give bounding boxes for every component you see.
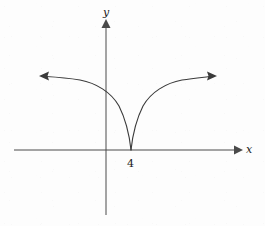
x-axis-arrow-icon [234, 146, 243, 155]
y-axis-label: y [102, 6, 110, 19]
curve-right-arrow-icon [207, 72, 217, 81]
graph-figure: y x 4 [0, 0, 265, 226]
coordinate-plane-svg: y x 4 [0, 0, 265, 226]
curve-right-branch [131, 77, 210, 151]
curve-left-arrow-icon [39, 72, 49, 81]
curve-left-branch [46, 77, 131, 151]
x-tick-label-4: 4 [127, 157, 134, 170]
y-axis-arrow-icon [102, 19, 111, 28]
x-axis-label: x [246, 143, 253, 156]
